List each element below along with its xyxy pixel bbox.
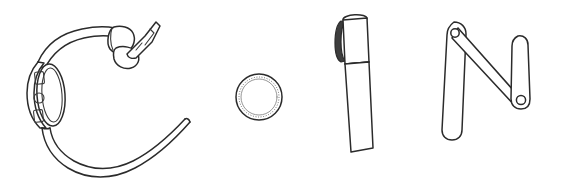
illustration-canvas: Wristwatch with open strap Small round d… (0, 0, 571, 186)
watch-strap-lower (42, 119, 190, 177)
disc-outer-ring (236, 74, 282, 120)
pen-barrel (345, 62, 373, 152)
pen-cap (343, 18, 369, 64)
line-art-svg (0, 0, 571, 186)
object-round-disc (236, 74, 282, 120)
object-pen (335, 14, 373, 152)
object-wristwatch (27, 22, 190, 177)
object-folding-ruler (442, 22, 530, 140)
ruler-rivet-top (451, 29, 459, 37)
ruler-rivet-bottom (516, 95, 525, 104)
